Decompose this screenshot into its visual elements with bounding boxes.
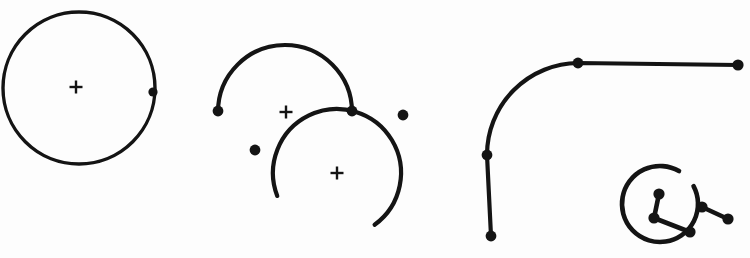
node-polyline-tangent-lower bbox=[482, 150, 493, 161]
node-arc-lower-middle-start bbox=[250, 145, 261, 156]
arc-upper-middle bbox=[218, 45, 352, 112]
polyline-small-inner bbox=[654, 194, 690, 232]
node-small-inner-top bbox=[653, 188, 664, 199]
cross-center-upper-middle bbox=[280, 106, 293, 119]
node-small-inner-elbow bbox=[648, 212, 659, 223]
middle-double-arc-group bbox=[213, 45, 409, 225]
cross-center-left bbox=[70, 81, 83, 94]
drawing-canvas bbox=[0, 0, 750, 258]
node-polyline-lower-end bbox=[486, 231, 497, 242]
node-polyline-right-end bbox=[732, 59, 743, 70]
cross-center-lower-middle bbox=[331, 167, 344, 180]
node-small-outer-start bbox=[696, 201, 707, 212]
node-small-outer-end bbox=[722, 213, 733, 224]
node-polyline-corner bbox=[573, 58, 584, 69]
left-full-circle-group bbox=[3, 12, 158, 164]
node-circle-left-seam bbox=[148, 87, 157, 96]
geometry-figure bbox=[0, 0, 750, 258]
node-arc-upper-middle-left bbox=[213, 106, 224, 117]
small-circle-group bbox=[622, 166, 734, 242]
node-arc-lower-middle-end bbox=[398, 110, 409, 121]
right-polyline-group bbox=[482, 58, 744, 242]
node-small-inner-end bbox=[684, 226, 695, 237]
